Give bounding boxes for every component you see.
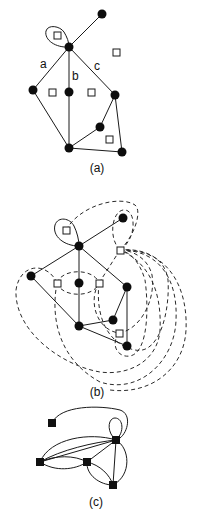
caption-a: (a) [90, 161, 105, 175]
dual-edge [94, 283, 119, 333]
vertex [75, 279, 84, 288]
dual-edge [119, 250, 153, 333]
face-marker [106, 136, 113, 143]
vertex [75, 322, 84, 331]
edge [115, 95, 122, 152]
vertex [96, 123, 105, 132]
caption-c: (c) [89, 495, 103, 509]
face-marker [113, 49, 120, 56]
face-marker [63, 227, 70, 234]
edge-label-c: c [94, 59, 100, 73]
dual-edge [113, 440, 116, 485]
dual-vertex [109, 481, 117, 489]
face-marker [96, 280, 103, 287]
edge [79, 218, 123, 246]
dual-edge [40, 462, 87, 469]
edge [69, 127, 100, 148]
dual-vertex [112, 436, 120, 444]
panel-b-dual-edges [16, 201, 186, 390]
panel-c-edges [40, 407, 128, 485]
face-marker [88, 89, 95, 96]
edge-label-b: b [72, 69, 79, 83]
vertex [29, 86, 38, 95]
panel-a-faces [49, 32, 120, 143]
vertex [27, 272, 36, 281]
dual-edge [52, 407, 128, 438]
dual-edge [40, 457, 87, 462]
face-marker [49, 89, 56, 96]
vertex [65, 88, 74, 97]
edge [33, 90, 69, 148]
panel-a-edges [33, 14, 122, 152]
edge [69, 148, 122, 152]
vertex [75, 242, 84, 251]
panel-c: (c) [36, 407, 128, 509]
edge [31, 246, 79, 276]
figure-canvas: a b c (a) [0, 0, 198, 523]
panel-c-vertices [36, 419, 120, 489]
edge [79, 320, 113, 326]
vertex [118, 148, 127, 157]
face-marker [54, 32, 61, 39]
vertex [65, 144, 74, 153]
dual-edge [98, 250, 168, 351]
edge-label-a: a [40, 57, 47, 71]
edge-a [33, 47, 69, 90]
vertex [109, 316, 118, 325]
vertex [123, 283, 132, 292]
panel-a: a b c (a) [29, 10, 127, 176]
vertex [65, 43, 74, 52]
vertex [98, 10, 107, 19]
vertex [119, 214, 128, 223]
edge [69, 14, 102, 47]
dual-edge [110, 250, 186, 391]
face-marker [117, 247, 124, 254]
edge [113, 287, 127, 320]
face-marker [116, 330, 123, 337]
face-marker [54, 280, 61, 287]
panel-a-vertices [29, 10, 127, 157]
vertex [123, 342, 132, 351]
panel-b: (b) [16, 201, 186, 399]
dual-vertex [83, 458, 91, 466]
dual-vertex [36, 458, 44, 466]
edge [100, 95, 115, 127]
dual-vertex [48, 419, 56, 427]
vertex [111, 91, 120, 100]
caption-b: (b) [90, 385, 105, 399]
dual-edge [87, 440, 116, 462]
dual-edge [16, 250, 160, 373]
